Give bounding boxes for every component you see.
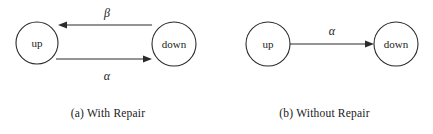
panel-without-repair: up down α (b) Without Repair: [216, 0, 433, 134]
edge-label-alpha: α: [329, 24, 336, 38]
arrow-head-up-to-down: [365, 41, 374, 48]
state-node-up-label: up: [263, 38, 275, 50]
figure-container: up down β α (a) With Repair up down α (b…: [0, 0, 433, 134]
arrow-head-up-to-down: [143, 56, 152, 63]
state-node-down-label: down: [384, 38, 409, 50]
edge-label-beta: β: [103, 6, 110, 20]
caption-without-repair: (b) Without Repair: [216, 107, 433, 119]
state-node-down-label: down: [162, 38, 187, 50]
panel-with-repair: up down β α (a) With Repair: [0, 0, 216, 134]
state-diagram-without-repair: up down α: [216, 0, 433, 100]
caption-with-repair: (a) With Repair: [0, 107, 216, 119]
state-diagram-with-repair: up down β α: [0, 0, 216, 100]
state-node-up-label: up: [32, 37, 44, 49]
arrow-head-down-to-up: [58, 22, 67, 29]
edge-label-alpha: α: [104, 69, 111, 83]
